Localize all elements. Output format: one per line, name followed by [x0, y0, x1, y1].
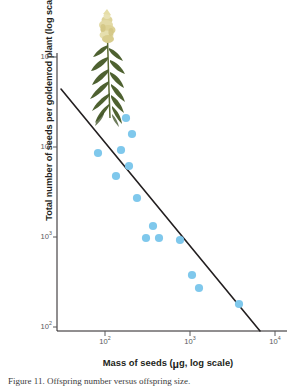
data-point [142, 234, 150, 242]
data-point [155, 234, 163, 242]
data-point [133, 194, 141, 202]
data-point [112, 172, 120, 180]
flower-head-icon [99, 9, 116, 43]
data-point [176, 236, 184, 244]
data-point [128, 130, 136, 138]
x-tick-marks [105, 331, 275, 336]
data-point [195, 284, 203, 292]
data-point [122, 114, 130, 122]
data-point [149, 222, 157, 230]
figure-caption: Figure 11. Offspring number versus offsp… [8, 376, 296, 386]
y-tick-marks [53, 57, 57, 327]
data-point [235, 300, 243, 308]
trend-line [61, 89, 260, 331]
data-point [94, 149, 102, 157]
scatter-plot [0, 0, 299, 390]
figure-container: Total number of seeds per goldenrod plan… [0, 0, 299, 390]
data-point [125, 162, 133, 170]
data-point [188, 271, 196, 279]
goldenrod-plant-illustration [90, 9, 125, 127]
data-point [117, 146, 125, 154]
scatter-points [94, 114, 243, 308]
axis-lines [57, 53, 287, 331]
